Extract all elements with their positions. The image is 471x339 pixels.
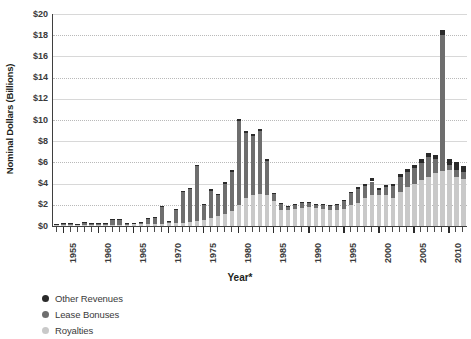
x-tick-label: 1985 <box>277 233 289 263</box>
bar-segment-lease-bonuses <box>307 203 311 207</box>
bar-1985 <box>272 193 276 226</box>
x-tick-mark <box>392 227 393 232</box>
bar-segment-royalties <box>447 170 451 226</box>
bar-segment-lease-bonuses <box>237 121 241 205</box>
x-tick-label: 1975 <box>207 233 219 263</box>
bar-segment-royalties <box>433 173 437 226</box>
bar-segment-other-revenues <box>335 204 339 205</box>
gridline <box>53 56 467 57</box>
bar-segment-royalties <box>370 195 374 226</box>
bar-segment-lease-bonuses <box>328 206 332 210</box>
bar-segment-royalties <box>405 187 409 226</box>
bar-segment-royalties <box>398 192 402 226</box>
y-tick-label: $10 <box>18 116 48 125</box>
bar-segment-other-revenues <box>363 184 367 186</box>
bar-segment-other-revenues <box>426 153 430 157</box>
bar-2007 <box>426 153 430 226</box>
bar-segment-lease-bonuses <box>279 204 283 210</box>
bar-segment-royalties <box>96 225 100 226</box>
bar-1961 <box>103 224 107 226</box>
bar-1964 <box>125 223 129 226</box>
bar-segment-other-revenues <box>286 206 290 207</box>
bar-segment-lease-bonuses <box>349 193 353 205</box>
bar-1962 <box>110 219 114 226</box>
bar-1966 <box>139 223 143 226</box>
gridline <box>53 99 467 100</box>
bar-segment-royalties <box>216 216 220 226</box>
bar-segment-royalties <box>363 198 367 226</box>
bar-segment-royalties <box>272 201 276 226</box>
y-tick-label: $18 <box>18 31 48 40</box>
bar-2004 <box>405 169 409 226</box>
bar-segment-lease-bonuses <box>117 219 121 224</box>
bar-segment-other-revenues <box>209 189 213 190</box>
x-tick-mark <box>329 227 330 232</box>
legend-item-other-revenues: Other Revenues <box>42 290 262 306</box>
bar-segment-other-revenues <box>265 159 269 161</box>
bar-segment-lease-bonuses <box>132 223 136 224</box>
bar-segment-other-revenues <box>54 224 58 225</box>
legend-label: Lease Bonuses <box>55 307 119 323</box>
bar-segment-other-revenues <box>103 223 107 224</box>
bar-1976 <box>209 189 213 226</box>
bar-segment-lease-bonuses <box>125 223 129 224</box>
bar-segment-lease-bonuses <box>440 35 444 171</box>
x-tick-mark <box>462 227 463 232</box>
x-tick-mark <box>294 227 295 232</box>
bar-segment-lease-bonuses <box>300 203 304 208</box>
bar-segment-other-revenues <box>412 165 416 168</box>
bar-segment-other-revenues <box>349 192 353 194</box>
bar-segment-lease-bonuses <box>258 131 262 195</box>
bar-segment-other-revenues <box>160 206 164 207</box>
bar-segment-other-revenues <box>419 159 423 163</box>
bar-segment-lease-bonuses <box>61 224 65 225</box>
bar-segment-royalties <box>426 177 430 226</box>
bar-segment-other-revenues <box>356 187 360 189</box>
bar-1954 <box>54 224 58 226</box>
bar-segment-other-revenues <box>321 204 325 205</box>
x-tick-mark <box>280 227 281 232</box>
x-tick-mark <box>434 227 435 232</box>
bar-1994 <box>335 204 339 226</box>
gridline <box>53 14 467 15</box>
bar-1955 <box>61 224 65 226</box>
x-tick-label: 1965 <box>137 233 149 263</box>
bar-segment-lease-bonuses <box>75 224 79 225</box>
bar-segment-lease-bonuses <box>89 224 93 225</box>
bar-segment-other-revenues <box>82 222 86 223</box>
bar-segment-lease-bonuses <box>426 157 430 177</box>
bar-segment-royalties <box>384 195 388 226</box>
bar-segment-royalties <box>132 224 136 226</box>
bar-segment-royalties <box>181 223 185 226</box>
bar-segment-royalties <box>244 198 248 226</box>
y-tick-label: $4 <box>18 179 48 188</box>
bar-segment-royalties <box>202 220 206 226</box>
x-tick-label: 2005 <box>417 233 429 263</box>
bar-segment-other-revenues <box>461 166 465 172</box>
bar-segment-royalties <box>293 209 297 226</box>
bar-segment-lease-bonuses <box>244 133 248 199</box>
gridline <box>53 35 467 36</box>
legend-label: Other Revenues <box>55 291 123 307</box>
bar-segment-royalties <box>412 184 416 226</box>
bar-1974 <box>195 165 199 226</box>
bar-segment-other-revenues <box>370 178 374 181</box>
bar-segment-lease-bonuses <box>454 170 458 177</box>
bar-segment-royalties <box>349 205 353 226</box>
bar-segment-royalties <box>237 205 241 226</box>
bar-segment-lease-bonuses <box>461 172 465 179</box>
bar-1958 <box>82 223 86 226</box>
x-tick-mark <box>175 227 176 232</box>
legend-swatch-icon <box>42 327 49 334</box>
bar-1973 <box>188 188 192 226</box>
bar-1979 <box>230 170 234 226</box>
bar-segment-other-revenues <box>377 188 381 190</box>
bar-segment-lease-bonuses <box>370 182 374 196</box>
bar-segment-lease-bonuses <box>146 219 150 224</box>
bar-segment-royalties <box>328 210 332 226</box>
bar-segment-other-revenues <box>125 223 129 224</box>
bar-segment-lease-bonuses <box>447 165 451 170</box>
bar-segment-other-revenues <box>132 223 136 224</box>
bar-1972 <box>181 191 185 226</box>
